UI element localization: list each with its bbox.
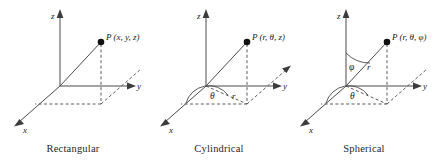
point-p-label: P (r, θ, φ) — [391, 32, 426, 42]
panel-cylindrical: z y x θ r P (r, θ, z) Cylindrical — [146, 0, 292, 167]
panel-rectangular: z y x P (x, y, z) Rectangular — [0, 0, 146, 167]
y-axis-arrowhead — [273, 83, 282, 90]
cylindrical-diagram: z y x θ r P (r, θ, z) — [146, 0, 292, 142]
point-p-dot — [244, 39, 251, 46]
point-p-label: P (r, θ, z) — [251, 32, 285, 42]
phi-label: φ — [349, 62, 354, 72]
theta-label: θ — [350, 91, 355, 101]
z-axis-arrowhead — [203, 9, 210, 18]
z-axis-label: z — [196, 11, 201, 21]
y-axis-arrowhead — [127, 83, 136, 90]
x-axis-label: x — [168, 125, 173, 135]
z-axis-arrowhead — [57, 9, 64, 18]
caption-cylindrical: Cylindrical — [146, 143, 292, 154]
position-vector-line — [60, 42, 101, 86]
radial-r-label: r — [367, 62, 371, 72]
y-axis-label: y — [282, 81, 287, 91]
y-axis-label: y — [136, 81, 141, 91]
point-p-dot — [384, 39, 391, 46]
point-p-dot — [98, 39, 105, 46]
z-axis-label: z — [336, 11, 341, 21]
panel-spherical: z y x φ θ r P (r, θ, φ) Spherical — [291, 0, 437, 167]
spherical-diagram: z y x φ θ r P (r, θ, φ) — [291, 0, 437, 142]
z-axis-arrowhead — [343, 9, 350, 18]
caption-spherical: Spherical — [291, 143, 437, 154]
radial-r-label: r — [232, 91, 236, 101]
y-axis-arrowhead — [413, 83, 422, 90]
rectangular-diagram: z y x P (x, y, z) — [0, 0, 146, 142]
theta-arc — [326, 86, 368, 103]
coordinate-systems-figure: z y x P (x, y, z) Rectangular — [0, 0, 437, 167]
theta-arc — [186, 86, 228, 103]
point-p-label: P (x, y, z) — [105, 32, 140, 42]
z-axis-label: z — [50, 11, 55, 21]
x-axis-label: x — [22, 125, 27, 135]
y-projection-arrowhead — [282, 66, 291, 74]
position-vector-line — [206, 42, 247, 86]
x-axis-label: x — [308, 125, 313, 135]
theta-label: θ — [210, 91, 215, 101]
y-axis-label: y — [422, 81, 427, 91]
caption-rectangular: Rectangular — [0, 143, 146, 154]
